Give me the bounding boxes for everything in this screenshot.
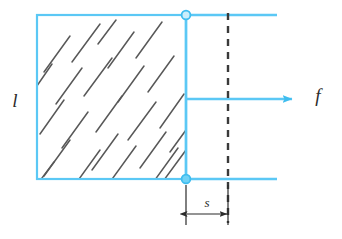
length-label: l	[12, 90, 17, 111]
slider-node-bottom-icon	[182, 175, 191, 184]
figure-canvas: l f s	[0, 0, 342, 239]
displacement-label: s	[204, 195, 209, 210]
soap-film-hatching	[30, 20, 186, 186]
force-label: f	[315, 85, 323, 106]
slider-node-top-icon	[182, 11, 191, 20]
soap-film-figure: l f s	[0, 0, 342, 239]
